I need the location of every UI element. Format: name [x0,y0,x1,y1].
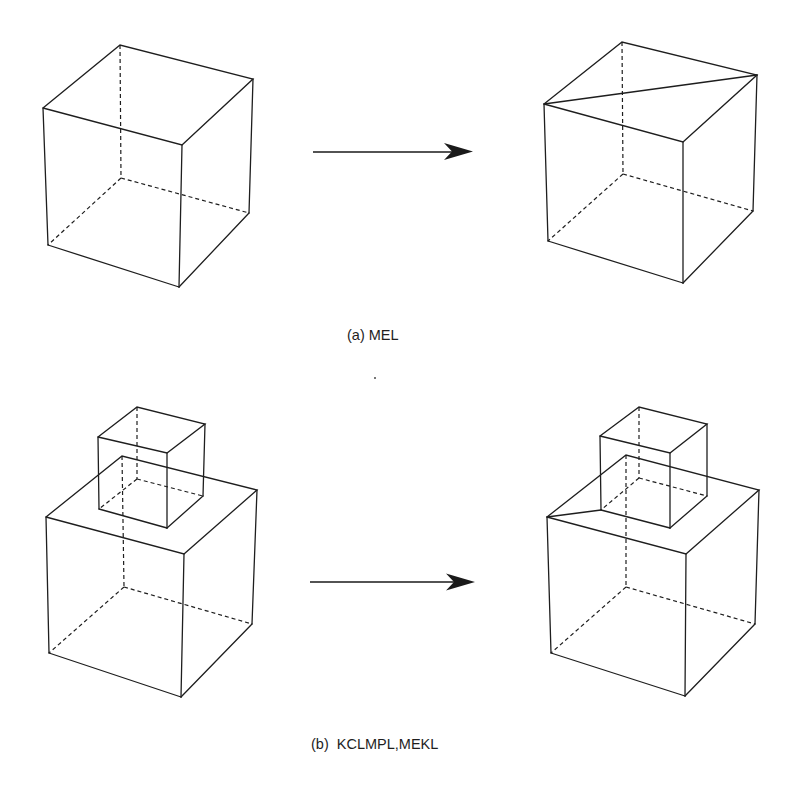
edge-bottom-left [551,653,685,696]
hidden-edge-back-left [99,479,137,509]
edge-bottom-left [99,509,167,528]
hidden-edge-back-left [601,478,639,510]
large-cube [547,455,759,696]
hidden-edge-back-right [124,587,252,624]
hidden-edge-back-vertical [120,45,121,178]
edge-bottom-left [48,245,179,287]
small-cube [600,407,707,528]
hidden-edge-back-vertical [622,42,623,174]
hidden-edge-back-right [623,174,753,211]
arrow-b [310,574,475,591]
top-face [547,455,759,554]
edge-front-vertical [181,554,184,697]
edge-bottom-right [181,624,252,697]
hidden-edge-back-right [121,178,249,213]
edge-bottom-right [670,496,707,528]
panel-b-before [46,407,257,697]
edge-right-vertical [753,75,757,211]
arrow-a [313,143,473,160]
euler-operator-figure [0,0,806,787]
hidden-edge-back-left [548,174,623,241]
hidden-edge-back-left [551,587,626,653]
edge-left-vertical [547,517,551,653]
panel-a-before-cube [43,45,253,287]
edge-right-vertical [755,490,759,624]
hidden-edge-back-left [49,587,124,653]
edge-right-vertical [249,79,253,213]
caption-a: (a) MEL [347,327,399,343]
edge-left-vertical [544,104,548,241]
edge-right-vertical [203,424,205,496]
edge-bottom-right [683,211,753,283]
hidden-edge-back-right [137,479,203,496]
top-face [43,45,253,145]
edge-front-vertical [685,554,686,696]
edge-front-vertical [179,145,182,287]
edge-bottom-left [49,653,181,697]
top-face [46,456,257,554]
edge-bottom-right [167,496,203,528]
hidden-edge-back-right [626,587,755,624]
top-face [544,42,757,142]
edge-left-vertical [600,436,601,510]
edge-bottom-right [179,213,249,287]
edge-left-vertical [98,437,99,509]
hidden-edge-back-right [639,478,707,496]
hidden-edge-back-left [48,178,121,245]
large-cube [46,456,257,697]
edge-bottom-right [685,624,755,696]
scan-speck [374,377,376,379]
panel-a-after-cube [544,42,757,283]
top-face [600,407,707,453]
edge-right-vertical [252,490,257,624]
caption-b: (b) KCLMPL,MEKL [311,736,438,752]
edge-left-vertical [43,108,48,245]
panel-b-after [547,407,759,696]
edge-bottom-left [601,510,670,528]
edge-bottom-left [548,241,683,283]
edge-left-vertical [46,517,49,653]
top-face [98,407,205,453]
small-cube [98,407,205,528]
hidden-edge-back-vertical [122,456,124,587]
